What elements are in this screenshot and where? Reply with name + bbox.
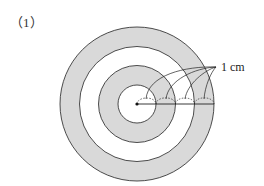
unit-annotation: 1 cm bbox=[221, 60, 245, 74]
concentric-circles-diagram: 1 cm bbox=[0, 0, 264, 186]
